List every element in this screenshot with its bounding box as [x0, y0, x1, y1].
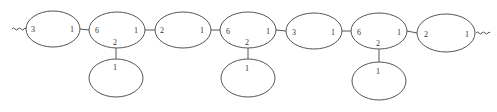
wavy-open-end-right: [476, 32, 490, 34]
node-D-bottom-label: 2: [245, 38, 249, 47]
child-node-D1: 1: [221, 59, 275, 97]
child-node-F1: 1: [352, 62, 406, 100]
node-F-bottom-label: 2: [376, 39, 380, 48]
node-F-right-label: 1: [397, 28, 401, 37]
node-C-right-label: 1: [200, 26, 204, 35]
node-B: 6 1 2: [89, 12, 145, 48]
child-node-B1-top-label: 1: [113, 63, 117, 72]
child-node-F1-top-label: 1: [376, 67, 380, 76]
edge-A-B: [80, 29, 89, 30]
child-node-D1-top-label: 1: [245, 64, 249, 73]
node-C: 2 1: [155, 12, 211, 48]
node-B-left-label: 6: [95, 26, 99, 35]
child-node-B1: 1: [89, 59, 143, 97]
node-D: 6 1 2: [220, 12, 276, 48]
chain-diagram: 3 1 6 1 2 2 1 6 1 2 3 1 6 1 2 2 1 1: [0, 0, 497, 112]
node-G-left-label: 2: [424, 30, 428, 39]
node-B-right-label: 1: [134, 26, 138, 35]
edge-D-E: [276, 30, 286, 31]
node-E-left-label: 3: [292, 28, 296, 37]
node-D-right-label: 1: [266, 27, 270, 36]
node-G-right-label: 1: [465, 30, 469, 39]
node-A-left-label: 3: [31, 25, 35, 34]
node-E: 3 1: [286, 13, 342, 49]
wavy-open-end-left: [12, 28, 26, 30]
node-D-left-label: 6: [226, 27, 230, 36]
node-B-bottom-label: 2: [113, 38, 117, 47]
node-F-left-label: 6: [357, 28, 361, 37]
edge-F-G: [407, 31, 417, 33]
node-G: 2 1: [417, 14, 475, 52]
node-A-right-label: 1: [70, 25, 74, 34]
node-F: 6 1 2: [351, 13, 407, 49]
node-C-left-label: 2: [160, 26, 164, 35]
node-A: 3 1: [26, 11, 80, 47]
node-E-right-label: 1: [331, 28, 335, 37]
